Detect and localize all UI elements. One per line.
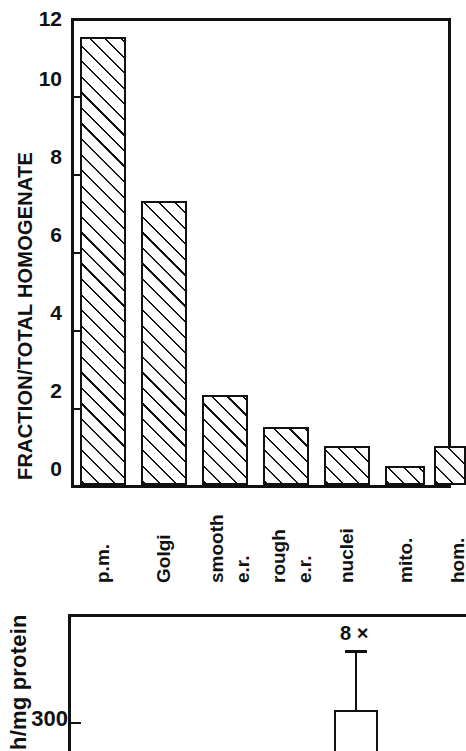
bar-hom [434, 446, 466, 485]
y-tick-label-2: 2 [24, 380, 62, 401]
y-tick-label-0: 0 [24, 458, 62, 479]
x-category-label-smooth-er: smooth e.r. [204, 514, 256, 583]
bar-smooth-er [202, 395, 248, 485]
x-category-label-rough-er: rough e.r. [266, 529, 318, 583]
y-tick-label-6: 6 [24, 224, 62, 245]
chart-panel-bottom: h/mg protein 300 8 × [0, 600, 466, 751]
cat-label-line1: p.m. [92, 544, 113, 583]
chart-panel-top: FRACTION/TOTAL HOMOGENATE 12 10 8 6 4 2 … [0, 0, 466, 600]
cat-label-line2: e.r. [230, 514, 256, 583]
y-tick-label-4: 4 [24, 302, 62, 323]
y-tick-label-300: 300 [22, 708, 68, 730]
bar-bottom-panel-open [334, 710, 378, 751]
cat-label-line1: rough [268, 529, 289, 583]
x-category-label-hom: hom. [447, 538, 466, 583]
x-category-label-nuclei: nuclei [336, 528, 358, 583]
plot-frame-bottom-panel-top-edge [68, 614, 466, 617]
bar-golgi [141, 201, 187, 485]
bar-mito [385, 466, 425, 485]
y-axis-spine-top-panel [71, 18, 74, 488]
y-tick-label-8: 8 [24, 146, 62, 167]
cat-label-line1: smooth [206, 514, 227, 583]
plot-frame-top-edge [71, 18, 451, 21]
bar-nuclei [324, 446, 370, 485]
cat-label-line1: nuclei [336, 528, 357, 583]
x-category-label-mito: mito. [395, 538, 417, 583]
error-bar-stem [355, 650, 357, 710]
y-axis-spine-bottom-panel [68, 614, 71, 751]
cat-label-line1: Golgi [153, 534, 174, 583]
cat-label-line2: e.r. [292, 529, 318, 583]
x-category-label-golgi: Golgi [153, 534, 175, 583]
fold-change-annotation: 8 × [340, 622, 368, 645]
cat-label-line1: hom. [447, 538, 466, 583]
cat-label-line1: mito. [395, 538, 416, 583]
x-axis-baseline-top-panel [71, 485, 451, 488]
bar-p-m [80, 37, 126, 485]
y-tick-label-10: 10 [24, 68, 62, 89]
plot-frame-right-edge [448, 18, 451, 488]
y-tick-label-12: 12 [24, 8, 62, 29]
figure-root: FRACTION/TOTAL HOMOGENATE 12 10 8 6 4 2 … [0, 0, 466, 751]
x-category-label-p-m: p.m. [92, 544, 114, 583]
bar-rough-er [263, 427, 309, 485]
